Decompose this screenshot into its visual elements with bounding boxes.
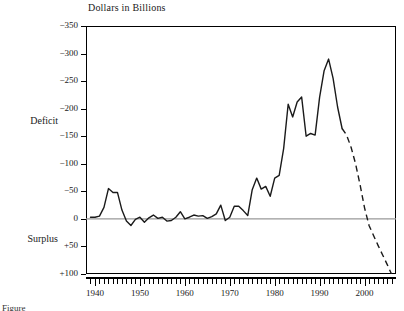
x-tick-minor: [212, 278, 213, 284]
x-tick-minor: [167, 278, 168, 284]
x-tick-minor: [306, 278, 307, 284]
x-tick-minor: [311, 278, 312, 284]
x-tick-minor: [99, 278, 100, 284]
plot-area: [86, 26, 396, 274]
x-tick-minor: [194, 278, 195, 284]
x-tick-minor: [270, 278, 271, 284]
x-tick-minor: [338, 278, 339, 284]
x-tick-minor: [171, 278, 172, 284]
x-tick-label: 1980: [258, 288, 292, 298]
x-tick-minor: [324, 278, 325, 284]
x-tick-minor: [252, 278, 253, 284]
x-tick-major: [230, 278, 231, 286]
y-tick-label: −50: [44, 185, 78, 195]
y-tick-label: −150: [44, 130, 78, 140]
x-tick-label: 1940: [78, 288, 112, 298]
x-tick-minor: [293, 278, 294, 284]
x-tick-minor: [374, 278, 375, 284]
x-tick-minor: [315, 278, 316, 284]
x-tick-minor: [387, 278, 388, 284]
x-tick-minor: [347, 278, 348, 284]
actual-deficit-line: [90, 59, 342, 225]
y-tick-label: −350: [44, 20, 78, 30]
x-tick-minor: [126, 278, 127, 284]
x-tick-minor: [302, 278, 303, 284]
x-tick-minor: [369, 278, 370, 284]
x-tick-minor: [243, 278, 244, 284]
x-tick-minor: [108, 278, 109, 284]
x-tick-minor: [383, 278, 384, 284]
deficit-region-label: Deficit: [6, 115, 58, 126]
x-tick-minor: [122, 278, 123, 284]
x-tick-minor: [378, 278, 379, 284]
x-tick-major: [275, 278, 276, 286]
x-tick-minor: [216, 278, 217, 284]
figure-caption-fragment: Figure: [2, 303, 252, 311]
x-tick-minor: [221, 278, 222, 284]
x-tick-minor: [90, 278, 91, 284]
x-tick-major: [185, 278, 186, 286]
y-tick-label: +100: [44, 268, 78, 278]
y-tick-label: +50: [44, 240, 78, 250]
x-tick-minor: [225, 278, 226, 284]
x-tick-minor: [189, 278, 190, 284]
x-axis-rule: [86, 277, 396, 279]
chart-title: Dollars in Billions: [88, 2, 166, 13]
x-tick-minor: [239, 278, 240, 284]
x-tick-minor: [149, 278, 150, 284]
x-tick-minor: [279, 278, 280, 284]
x-tick-minor: [207, 278, 208, 284]
x-tick-label: 1990: [303, 288, 337, 298]
x-tick-minor: [180, 278, 181, 284]
x-tick-minor: [261, 278, 262, 284]
x-tick-minor: [342, 278, 343, 284]
x-tick-major: [140, 278, 141, 286]
x-tick-minor: [297, 278, 298, 284]
x-tick-minor: [356, 278, 357, 284]
x-tick-label: 1950: [123, 288, 157, 298]
x-tick-major: [320, 278, 321, 286]
x-tick-minor: [113, 278, 114, 284]
x-tick-minor: [104, 278, 105, 284]
y-tick-label: −200: [44, 103, 78, 113]
x-tick-minor: [329, 278, 330, 284]
x-tick-minor: [162, 278, 163, 284]
x-tick-label: 1970: [213, 288, 247, 298]
x-tick-minor: [158, 278, 159, 284]
x-tick-minor: [266, 278, 267, 284]
x-tick-minor: [203, 278, 204, 284]
y-tick-label: −250: [44, 75, 78, 85]
x-tick-minor: [360, 278, 361, 284]
x-tick-minor: [135, 278, 136, 284]
x-tick-minor: [117, 278, 118, 284]
x-tick-label: 1960: [168, 288, 202, 298]
y-tick-label: 0: [44, 213, 78, 223]
x-tick-minor: [257, 278, 258, 284]
x-tick-minor: [392, 278, 393, 284]
x-tick-major: [365, 278, 366, 286]
x-tick-minor: [234, 278, 235, 284]
y-tick-label: −300: [44, 48, 78, 58]
x-tick-minor: [153, 278, 154, 284]
projected-deficit-line: [342, 129, 391, 274]
y-tick-label: −100: [44, 158, 78, 168]
x-tick-label: 2000: [348, 288, 382, 298]
x-tick-minor: [248, 278, 249, 284]
x-tick-minor: [288, 278, 289, 284]
x-tick-minor: [198, 278, 199, 284]
x-tick-minor: [351, 278, 352, 284]
x-tick-major: [95, 278, 96, 286]
x-tick-minor: [176, 278, 177, 284]
x-tick-minor: [284, 278, 285, 284]
x-tick-minor: [333, 278, 334, 284]
x-tick-minor: [131, 278, 132, 284]
x-tick-minor: [144, 278, 145, 284]
y-tick-mark: [81, 274, 86, 275]
